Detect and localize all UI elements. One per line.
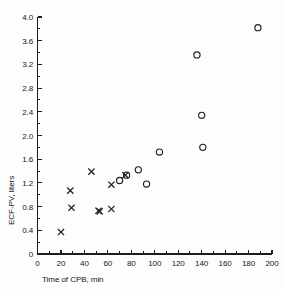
data-point-circle bbox=[143, 181, 149, 187]
data-point-cross bbox=[68, 205, 74, 211]
y-tick-label-3-6: 3.6 bbox=[22, 37, 33, 46]
data-point-circle bbox=[124, 172, 130, 178]
y-tick-label-1-2: 1.2 bbox=[22, 179, 33, 188]
x-tick-label-100: 100 bbox=[148, 259, 162, 268]
y-tick-label-2: 2.0 bbox=[22, 132, 33, 141]
y-tick-label-3-2: 3.2 bbox=[22, 60, 33, 69]
x-tick-label-160: 160 bbox=[219, 259, 233, 268]
data-point-cross bbox=[108, 182, 114, 188]
data-point-circle bbox=[194, 52, 200, 58]
chart-figure: 020406080100120140160180200 00.40.81.21.… bbox=[0, 0, 285, 289]
scatter-plot: 020406080100120140160180200 00.40.81.21.… bbox=[0, 0, 285, 289]
data-point-circle bbox=[135, 167, 141, 173]
x-axis-tick-labels: 020406080100120140160180200 bbox=[35, 259, 279, 268]
data-point-circle bbox=[116, 177, 122, 183]
y-tick-label-0: 0 bbox=[29, 250, 34, 259]
y-axis-tick-labels: 00.40.81.21.62.02.42.83.23.64.0 bbox=[22, 13, 33, 259]
x-tick-label-120: 120 bbox=[172, 259, 186, 268]
axis-lines bbox=[38, 17, 273, 254]
y-tick-label-4: 4.0 bbox=[22, 13, 33, 22]
x-tick-label-40: 40 bbox=[80, 259, 89, 268]
y-tick-label-2-8: 2.8 bbox=[22, 84, 33, 93]
data-point-cross bbox=[108, 206, 114, 212]
x-tick-label-200: 200 bbox=[265, 259, 279, 268]
x-tick-label-20: 20 bbox=[57, 259, 66, 268]
x-tick-label-80: 80 bbox=[127, 259, 136, 268]
x-axis-title: Time of CPB, min bbox=[42, 275, 104, 284]
data-point-circle bbox=[200, 144, 206, 150]
y-tick-label-1-6: 1.6 bbox=[22, 155, 33, 164]
x-tick-label-0: 0 bbox=[35, 259, 40, 268]
y-tick-label-0-8: 0.8 bbox=[22, 203, 33, 212]
data-point-cross bbox=[88, 169, 94, 175]
axes-group bbox=[38, 17, 273, 254]
data-point-cross bbox=[67, 188, 73, 194]
x-tick-label-60: 60 bbox=[103, 259, 112, 268]
x-tick-label-180: 180 bbox=[242, 259, 256, 268]
data-point-circle bbox=[199, 112, 205, 118]
data-point-circle bbox=[156, 149, 162, 155]
data-point-circle bbox=[255, 25, 261, 31]
y-axis-title: ECF-PV, liters bbox=[7, 176, 16, 225]
x-tick-label-140: 140 bbox=[195, 259, 209, 268]
y-tick-label-2-4: 2.4 bbox=[22, 108, 33, 117]
y-tick-label-0-4: 0.4 bbox=[22, 226, 33, 235]
data-point-cross bbox=[58, 229, 64, 235]
data-markers-group bbox=[58, 25, 261, 236]
